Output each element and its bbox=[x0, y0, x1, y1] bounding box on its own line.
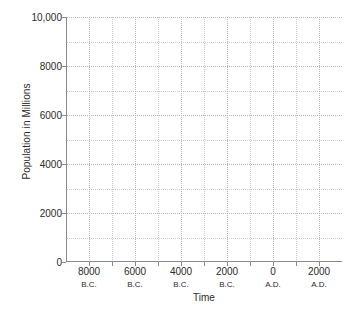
x-axis-tick-value: 2000 bbox=[216, 266, 238, 278]
gridline-vertical bbox=[296, 17, 297, 262]
gridline-vertical bbox=[319, 17, 320, 262]
y-axis-tick-mark bbox=[62, 164, 66, 165]
y-axis-tick-label: 6000 bbox=[40, 110, 62, 121]
x-axis-tick-label: 2000B.C. bbox=[216, 266, 238, 291]
y-axis-tick-label: 8000 bbox=[40, 61, 62, 72]
x-axis-tick-era: B.C. bbox=[170, 279, 192, 291]
gridline-vertical bbox=[227, 17, 228, 262]
gridline-horizontal bbox=[66, 238, 342, 239]
x-axis-tick-era: A.D. bbox=[308, 279, 330, 291]
gridline-vertical bbox=[112, 17, 113, 262]
x-axis-tick-era: B.C. bbox=[216, 279, 238, 291]
x-axis-tick-value: 4000 bbox=[170, 266, 192, 278]
x-axis-tick-label: 2000A.D. bbox=[308, 266, 330, 291]
chart-figure: Population in Millions 10,00080006000400… bbox=[0, 0, 361, 314]
y-axis-tick-mark bbox=[62, 66, 66, 67]
y-axis-tick-label: 10,000 bbox=[31, 12, 62, 23]
x-axis-tick-label: 6000B.C. bbox=[124, 266, 146, 291]
x-axis-tick-value: 6000 bbox=[124, 266, 146, 278]
x-axis-tick-label: 4000B.C. bbox=[170, 266, 192, 291]
y-axis-line bbox=[66, 17, 67, 262]
gridline-horizontal bbox=[66, 17, 342, 18]
gridline-vertical bbox=[181, 17, 182, 262]
x-axis-title: Time bbox=[66, 292, 342, 303]
grid-layer bbox=[66, 17, 342, 262]
y-axis-tick-mark bbox=[62, 213, 66, 214]
x-axis-tick-era: B.C. bbox=[124, 279, 146, 291]
y-axis-tick-mark bbox=[62, 115, 66, 116]
gridline-horizontal bbox=[66, 91, 342, 92]
x-axis-tick-era: A.D. bbox=[265, 279, 281, 291]
gridline-horizontal bbox=[66, 164, 342, 165]
gridline-vertical bbox=[250, 17, 251, 262]
gridline-vertical bbox=[89, 17, 90, 262]
x-axis-tick-value: 0 bbox=[265, 266, 281, 278]
y-axis-tick-label: 2000 bbox=[40, 208, 62, 219]
y-axis-tick-mark bbox=[62, 262, 66, 263]
x-axis-tick-label: 0A.D. bbox=[265, 266, 281, 291]
gridline-horizontal bbox=[66, 140, 342, 141]
y-axis-tick-labels: 10,00080006000400020000 bbox=[20, 17, 62, 262]
gridline-horizontal bbox=[66, 42, 342, 43]
x-axis-tick-era: B.C. bbox=[78, 279, 100, 291]
gridline-horizontal bbox=[66, 115, 342, 116]
gridline-vertical bbox=[204, 17, 205, 262]
gridline-horizontal bbox=[66, 189, 342, 190]
y-axis-tick-mark bbox=[62, 17, 66, 18]
gridline-horizontal bbox=[66, 66, 342, 67]
plot-area bbox=[66, 17, 342, 262]
gridline-horizontal bbox=[66, 213, 342, 214]
gridline-vertical bbox=[158, 17, 159, 262]
gridline-vertical bbox=[273, 17, 274, 262]
x-axis-tick-value: 2000 bbox=[308, 266, 330, 278]
x-axis-tick-value: 8000 bbox=[78, 266, 100, 278]
gridline-vertical bbox=[135, 17, 136, 262]
y-axis-tick-label: 4000 bbox=[40, 159, 62, 170]
x-axis-tick-label: 8000B.C. bbox=[78, 266, 100, 291]
